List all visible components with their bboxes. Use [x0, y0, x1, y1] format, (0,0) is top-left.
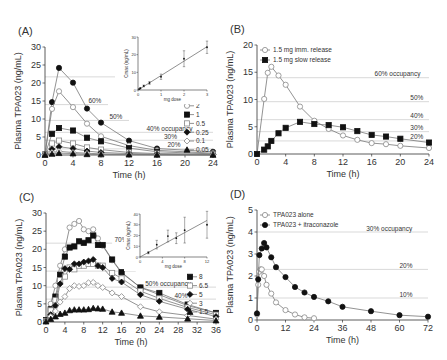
square-filled-marker-icon	[383, 134, 388, 139]
circle-open-marker-icon	[49, 106, 54, 111]
inset-data-point	[156, 244, 158, 246]
circle-filled-marker-icon	[56, 65, 61, 70]
y-tick-label: 5	[36, 132, 41, 142]
y-tick-label: 2	[248, 271, 253, 281]
occupancy-label: 30%	[164, 133, 177, 140]
y-tick-label: 25	[31, 60, 41, 70]
x-tick-label: 36	[211, 325, 221, 335]
inset-data-point	[175, 237, 177, 239]
square-open-marker-icon	[49, 141, 54, 146]
x-tick-label: 8	[312, 157, 317, 167]
circle-filled-marker-icon	[326, 299, 331, 304]
square-filled-marker-icon	[49, 131, 54, 136]
legend-entry: 1.5 mg imm. release	[273, 46, 332, 54]
inset-x-label: mg dose	[165, 264, 183, 269]
square-filled-marker-icon	[254, 151, 259, 156]
x-tick-label: 60	[394, 323, 404, 333]
cmax-vs-dose-inset: 01230102030mg doseCmax (ng/mL)	[122, 33, 213, 104]
y-tick-label: 0	[248, 149, 253, 159]
circle-open-marker-icon	[262, 47, 267, 52]
y-tick-label: 10	[31, 114, 41, 124]
circle-filled-marker-icon	[98, 120, 103, 125]
x-tick-label: 20	[395, 157, 405, 167]
circle-filled-marker-icon	[283, 275, 288, 280]
occupancy-label: 40%	[410, 112, 423, 119]
diamond-filled-marker-icon	[187, 291, 193, 297]
y-axis-label: Plasma TPA023 (ng/mL)	[14, 219, 24, 317]
square-filled-marker-icon	[283, 125, 288, 130]
square-filled-marker-icon	[326, 123, 331, 128]
occupancy-label: 50%	[109, 113, 122, 120]
svg-text:20: 20	[132, 52, 137, 57]
square-filled-marker-icon	[56, 125, 61, 130]
circle-open-marker-icon	[72, 221, 77, 226]
legend-entry: 1.5	[199, 308, 208, 315]
svg-text:20: 20	[134, 233, 139, 238]
circle-open-marker-icon	[264, 282, 269, 287]
square-filled-marker-icon	[84, 135, 89, 140]
circle-open-marker-icon	[76, 218, 81, 223]
circle-open-marker-icon	[283, 308, 288, 313]
x-tick-label: 16	[152, 158, 162, 168]
square-filled-marker-icon	[157, 290, 162, 295]
x-tick-label: 8	[98, 158, 103, 168]
x-tick-label: 28	[173, 325, 183, 335]
inset-data-point	[139, 87, 141, 89]
occupancy-label: 60%	[88, 97, 101, 104]
x-axis-label: Time (h)	[112, 170, 145, 180]
circle-open-marker-icon	[340, 133, 345, 138]
x-tick-label: 32	[192, 325, 202, 335]
circle-filled-marker-icon	[397, 313, 402, 318]
square-filled-marker-icon	[312, 121, 317, 126]
legend-entry: 1.5 mg slow release	[273, 56, 331, 64]
square-open-marker-icon	[56, 138, 61, 143]
occupancy-label: 50%	[410, 94, 423, 101]
square-filled-marker-icon	[91, 233, 96, 238]
occupancy-label: 20%	[400, 262, 413, 269]
circle-filled-marker-icon	[311, 294, 316, 299]
circle-open-marker-icon	[269, 291, 274, 296]
legend: 1.5 mg imm. release1.5 mg slow release	[260, 46, 332, 64]
square-open-marker-icon	[187, 283, 192, 288]
svg-text:12: 12	[205, 259, 210, 264]
square-filled-marker-icon	[297, 119, 302, 124]
series-1-5-mg-imm-release	[254, 64, 431, 156]
circle-filled-marker-icon	[262, 222, 267, 227]
panel-label: (D)	[230, 188, 245, 200]
y-tick-label: 20	[31, 78, 41, 88]
series-tpa023-itraconazole	[254, 240, 430, 319]
svg-text:40: 40	[134, 212, 139, 217]
pk-figure-svg: (A)70%60%50%40% occupancy30%20%048121620…	[0, 0, 447, 360]
circle-filled-marker-icon	[254, 311, 259, 316]
square-filled-marker-icon	[426, 140, 431, 145]
circle-open-marker-icon	[259, 267, 264, 272]
y-tick-label: 30	[31, 42, 41, 52]
panel-label: (A)	[18, 25, 33, 37]
x-tick-label: 24	[424, 157, 434, 167]
inset-x-label: mg dose	[164, 97, 182, 102]
y-tick-label: 10	[243, 95, 253, 105]
svg-text:30: 30	[134, 222, 139, 227]
occupancy-label: 30%	[410, 124, 423, 131]
x-tick-label: 36	[337, 323, 347, 333]
circle-filled-marker-icon	[302, 290, 307, 295]
y-tick-label: 0	[248, 315, 253, 325]
circle-open-marker-icon	[311, 316, 316, 321]
inset-y-label: Cmax (ng/mL)	[124, 49, 129, 78]
inset-data-point	[183, 58, 185, 60]
square-filled-marker-icon	[262, 57, 267, 62]
x-axis-label: Time (h)	[114, 337, 147, 347]
x-tick-label: 72	[423, 323, 433, 333]
legend-entry: 0.05	[196, 146, 209, 153]
y-tick-label: 15	[243, 67, 253, 77]
y-tick-label: 25	[32, 226, 42, 236]
legend-entry: TPA023 + itraconazole	[273, 221, 339, 228]
square-open-marker-icon	[184, 121, 189, 126]
occupancy-label: 60% occupancy	[375, 70, 422, 78]
legend-entry: 1	[196, 111, 200, 118]
legend: TPA023 aloneTPA023 + itraconazole	[260, 211, 339, 228]
inset-data-point	[160, 76, 162, 78]
circle-open-marker-icon	[262, 96, 267, 101]
circle-filled-marker-icon	[70, 80, 75, 85]
x-tick-label: 0	[42, 158, 47, 168]
